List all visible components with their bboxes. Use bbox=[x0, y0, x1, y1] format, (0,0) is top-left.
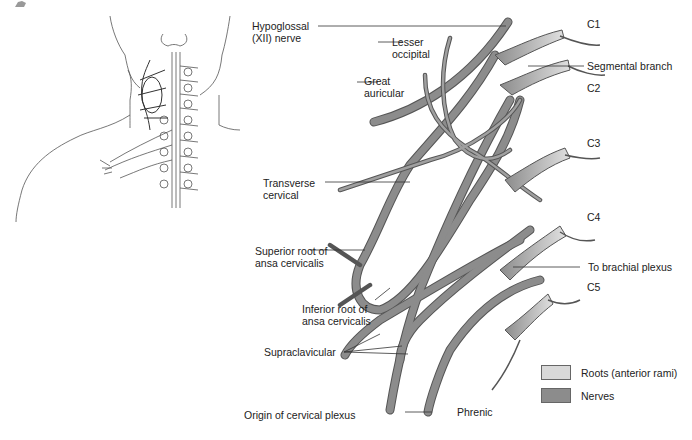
label-superior-root-line2: ansa cervicalis bbox=[255, 257, 327, 269]
label-superior-root: Superior root of ansa cervicalis bbox=[255, 245, 327, 269]
label-lesser-occipital: Lesser occipital bbox=[392, 36, 430, 60]
label-supraclavicular: Supraclavicular bbox=[264, 346, 336, 358]
label-inferior-root-line1: Inferior root of bbox=[302, 303, 371, 315]
label-to-brachial-plexus: To brachial plexus bbox=[588, 261, 672, 273]
label-inferior-root: Inferior root of ansa cervicalis bbox=[302, 303, 371, 327]
label-phrenic: Phrenic bbox=[457, 406, 493, 418]
label-hypoglossal: Hypoglossal (XII) nerve bbox=[252, 20, 309, 44]
label-hypoglossal-line1: Hypoglossal bbox=[252, 20, 309, 32]
label-great-auricular-line2: auricular bbox=[364, 87, 404, 99]
legend-roots: Roots (anterior rami) bbox=[541, 365, 677, 380]
label-c3: C3 bbox=[587, 137, 600, 149]
label-c4: C4 bbox=[587, 211, 600, 223]
legend-roots-swatch bbox=[541, 365, 571, 380]
label-c2: C2 bbox=[587, 82, 600, 94]
label-inferior-root-line2: ansa cervicalis bbox=[302, 315, 371, 327]
label-superior-root-line1: Superior root of bbox=[255, 245, 327, 257]
figure-caption: Origin of cervical plexus bbox=[244, 409, 355, 421]
legend-nerves-label: Nerves bbox=[581, 390, 614, 402]
label-c1: C1 bbox=[587, 18, 600, 30]
legend-nerves-swatch bbox=[541, 388, 571, 403]
label-transverse-cervical: Transverse cervical bbox=[263, 177, 315, 201]
label-great-auricular: Great auricular bbox=[364, 75, 404, 99]
label-hypoglossal-line2: (XII) nerve bbox=[252, 32, 309, 44]
legend-roots-label: Roots (anterior rami) bbox=[581, 367, 677, 379]
label-c5: C5 bbox=[587, 281, 600, 293]
label-lesser-occipital-line1: Lesser bbox=[392, 36, 430, 48]
legend-nerves: Nerves bbox=[541, 388, 614, 403]
label-lesser-occipital-line2: occipital bbox=[392, 48, 430, 60]
label-segmental-branch: Segmental branch bbox=[587, 60, 672, 72]
label-transverse-cervical-line1: Transverse bbox=[263, 177, 315, 189]
label-transverse-cervical-line2: cervical bbox=[263, 189, 315, 201]
label-great-auricular-line1: Great bbox=[364, 75, 404, 87]
